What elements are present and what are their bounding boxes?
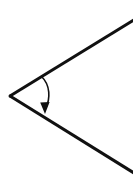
angle-diagram-svg <box>0 0 133 180</box>
diagram-canvas <box>0 0 133 180</box>
vertex-point <box>9 95 12 98</box>
